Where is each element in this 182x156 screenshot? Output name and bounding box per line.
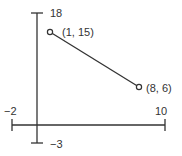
point-label-8-6: (8, 6): [146, 82, 172, 94]
point-1-15: [47, 29, 52, 34]
y-min-label: −3: [50, 138, 63, 150]
point-8-6: [136, 84, 141, 89]
x-min-label: −2: [4, 105, 17, 117]
y-max-label: 18: [50, 7, 62, 19]
point-label-1-15: (1, 15): [62, 26, 94, 38]
x-max-label: 10: [155, 105, 167, 117]
coordinate-plane: 18 −3 −2 10 (1, 15) (8, 6): [0, 0, 182, 156]
line-segment: [50, 32, 139, 87]
